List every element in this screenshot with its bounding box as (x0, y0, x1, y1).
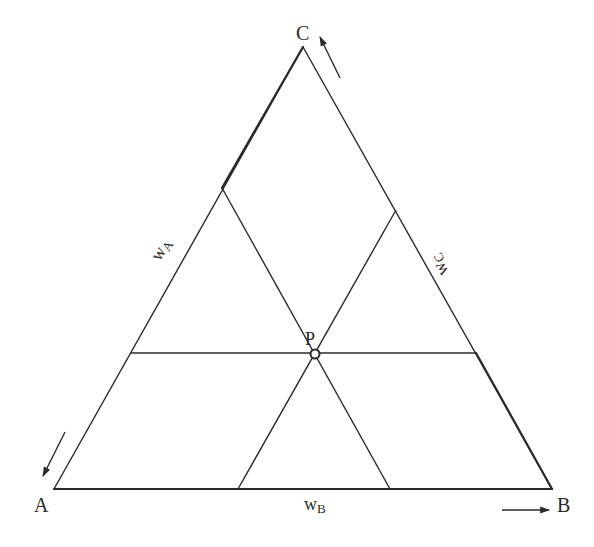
guide-lines (131, 188, 476, 489)
point-p-marker (311, 350, 320, 359)
svg-text:wC: wC (424, 250, 454, 280)
ternary-diagram: P A B C wA wB wC (0, 0, 594, 547)
vertex-c-label: C (296, 22, 309, 44)
edge-ac-upper-bold (222, 47, 303, 188)
svg-text:wA: wA (146, 234, 177, 265)
axis-label-wa: wA (146, 234, 177, 265)
arrow-c-icon (320, 37, 340, 78)
axis-label-wc: wC (424, 250, 454, 280)
point-p-label: P (305, 329, 315, 349)
edge-bc-lower-bold (476, 353, 552, 489)
triangle (54, 47, 552, 489)
vertex-b-label: B (557, 494, 570, 516)
svg-text:wB: wB (304, 494, 326, 516)
arrow-a-icon (43, 432, 65, 476)
axis-label-wb: wB (304, 494, 326, 516)
vertex-a-label: A (34, 494, 49, 516)
